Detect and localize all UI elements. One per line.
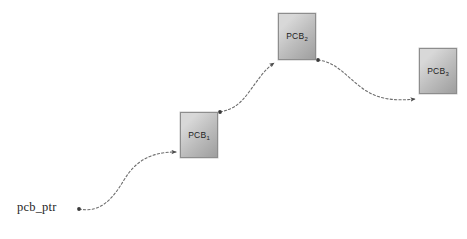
link-ptr-pcb1-path	[79, 152, 176, 210]
pcb-node-2-label: PCB2	[286, 32, 308, 41]
pcb-pointer-label: pcb_ptr	[17, 200, 57, 215]
pcb-node-2[interactable]: PCB2	[278, 13, 316, 60]
link-pcb2-pcb3-path	[318, 60, 415, 100]
pcb-node-3-label-subscript: 3	[446, 71, 450, 77]
link-layer	[0, 0, 467, 239]
pcb-node-3-label: PCB3	[427, 67, 449, 76]
link-pcb1-pcb2-start-dot	[218, 110, 222, 114]
pcb-node-1-label: PCB1	[188, 131, 210, 140]
diagram-canvas: PCB1 PCB2 PCB3 pcb_ptr	[0, 0, 467, 239]
link-pcb2-pcb3	[316, 58, 415, 100]
pcb-node-3-label-base: PCB	[427, 66, 445, 76]
link-pcb1-pcb2-path	[220, 63, 274, 112]
link-ptr-pcb1	[77, 152, 176, 211]
pcb-node-2-label-subscript: 2	[305, 36, 309, 42]
link-ptr-pcb1-start-dot	[77, 207, 81, 211]
pcb-node-1[interactable]: PCB1	[180, 112, 218, 158]
link-pcb2-pcb3-start-dot	[316, 58, 320, 62]
pcb-node-1-label-subscript: 1	[207, 135, 211, 141]
pcb-node-2-label-base: PCB	[286, 31, 304, 41]
pcb-node-1-label-base: PCB	[188, 130, 206, 140]
link-pcb1-pcb2	[218, 63, 274, 114]
pcb-node-3[interactable]: PCB3	[419, 48, 457, 94]
